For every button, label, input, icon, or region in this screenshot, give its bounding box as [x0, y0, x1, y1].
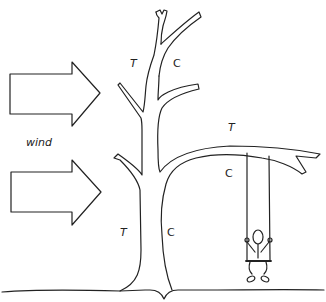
side-branch-tension-label: T: [228, 122, 235, 133]
upper-branch-compression-label: C: [173, 58, 181, 69]
lower-wind-arrow-icon: [11, 160, 101, 225]
ground-line: [2, 290, 324, 299]
wind-label: wind: [26, 137, 52, 148]
child-figure: [245, 230, 272, 283]
side-branch-compression-label: C: [225, 168, 233, 179]
trunk-compression-label: C: [167, 227, 175, 238]
upper-wind-arrow-icon: [10, 62, 100, 126]
swing-rope-right: [269, 156, 270, 260]
tree-trunk-left-outline: [114, 12, 159, 291]
trunk-tension-label: T: [120, 227, 127, 238]
tree-trunk-right-outline: [158, 76, 320, 290]
diagram-canvas: [0, 0, 326, 302]
upper-branch-tension-label: T: [130, 58, 137, 69]
